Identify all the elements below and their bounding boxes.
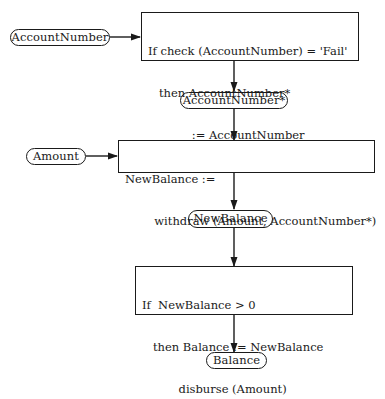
process-box-check-account: If check (AccountNumber) = 'Fail' then A… <box>141 12 359 61</box>
process-line: then Balance := NewBalance <box>142 340 352 354</box>
process-line: If check (AccountNumber) = 'Fail' <box>148 44 358 58</box>
data-node-label: Amount <box>33 149 79 163</box>
process-line: then AccountNumber* <box>148 86 358 100</box>
process-line: disburse (Amount) <box>142 382 352 396</box>
process-line: If NewBalance > 0 <box>142 298 352 312</box>
process-box-withdraw: NewBalance := withdraw (Amount, AccountN… <box>118 140 375 173</box>
process-box-disburse: If NewBalance > 0 then Balance := NewBal… <box>135 266 353 315</box>
process-line: withdraw (Amount, AccountNumber*) <box>125 214 374 228</box>
data-node-amount: Amount <box>26 148 86 165</box>
data-node-label: AccountNumber <box>12 30 109 44</box>
data-node-account-number: AccountNumber <box>10 29 110 46</box>
process-line: NewBalance := <box>125 172 374 186</box>
